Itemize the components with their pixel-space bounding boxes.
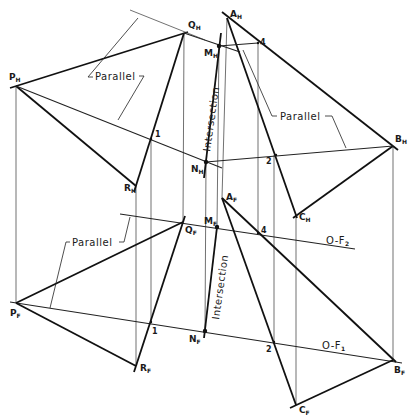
leader-to-o-f2	[119, 217, 130, 242]
label-q-h: QH	[188, 20, 201, 31]
point-n-h	[204, 160, 208, 164]
label-q-f: QF	[185, 225, 197, 236]
parallel-annotation-right-h: Parallel	[243, 50, 346, 148]
parallel-label-right-h: Parallel	[280, 111, 320, 122]
point-1-h	[150, 138, 152, 140]
parallel-annotation-f: Parallel	[50, 217, 130, 308]
projector-q	[183, 33, 184, 222]
label-n-f: NF	[189, 334, 201, 345]
point-n-f	[203, 329, 207, 333]
leader-to-m4-line	[243, 50, 277, 116]
label-1-f: 1	[152, 327, 158, 336]
label-4-f: 4	[261, 226, 267, 235]
label-4-h: 4	[260, 38, 266, 47]
leader-to-p-line	[118, 76, 144, 120]
parallel-label-left-h: Parallel	[95, 71, 135, 82]
label-r-f: RF	[140, 363, 151, 374]
descriptive-geometry-drawing: PH QH RH AH BH CH MH NH 1 2 4 Parallel P…	[0, 0, 409, 416]
line-m-4-h	[219, 43, 258, 46]
point-4-f	[257, 232, 259, 234]
edge-pq-f	[16, 222, 183, 303]
label-a-h: AH	[230, 9, 242, 20]
parallel-label-f: Parallel	[72, 237, 112, 248]
edge-bc-f	[290, 360, 393, 408]
line-p-1-h	[16, 86, 222, 168]
label-p-f: PF	[10, 308, 21, 319]
label-1-h: 1	[155, 130, 161, 139]
label-c-f: CF	[299, 405, 310, 416]
parallel-annotation-left-h: Parallel	[88, 18, 144, 120]
edge-pr-h	[16, 86, 136, 186]
edge-qr-h	[134, 33, 184, 192]
point-1-f	[150, 321, 152, 323]
label-m-f: MF	[204, 216, 217, 227]
leader-to-top-line	[88, 18, 138, 77]
label-c-h: CH	[299, 212, 311, 223]
label-m-h: MH	[204, 48, 218, 59]
label-p-h: PH	[9, 72, 21, 83]
point-m-h	[217, 44, 221, 48]
label-a-f: AF	[226, 192, 237, 203]
front-view: PF QF RF AF BF CF MF NF 1 2 4 O-F2 O-F1 …	[10, 192, 405, 416]
projector-n	[205, 162, 206, 331]
label-o-f2: O-F2	[326, 235, 350, 247]
label-b-h: BH	[395, 134, 407, 145]
label-o-f1: O-F1	[322, 340, 346, 352]
line-n-2-b-h	[206, 146, 393, 162]
leader-to-p-line-f	[50, 242, 70, 308]
point-2-h	[275, 154, 277, 156]
point-2-f	[273, 341, 275, 343]
leader-to-nb-line	[325, 116, 346, 148]
point-4-h	[257, 42, 259, 44]
label-b-f: BF	[394, 365, 405, 376]
edge-bc-h	[293, 146, 393, 218]
label-2-h: 2	[266, 157, 272, 166]
horizontal-view: PH QH RH AH BH CH MH NH 1 2 4 Parallel P…	[9, 9, 407, 223]
edge-ac-f	[222, 198, 296, 405]
edge-qr-f	[134, 216, 185, 372]
projector-m	[217, 46, 219, 227]
label-n-h: NH	[191, 164, 204, 175]
label-2-f: 2	[266, 345, 272, 354]
